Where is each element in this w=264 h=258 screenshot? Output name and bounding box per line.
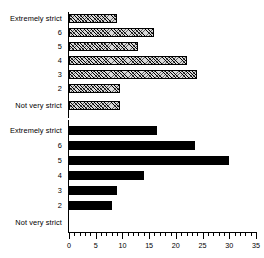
upper-row-6: Not very strict <box>0 99 264 113</box>
upper-bar-1 <box>69 28 154 37</box>
x-tick-26 <box>208 233 209 236</box>
x-axis: 05101520253035 <box>0 232 264 258</box>
upper-row-4: 3 <box>0 68 264 82</box>
x-tick-34 <box>251 233 252 236</box>
x-tick-29 <box>224 233 225 236</box>
x-tick-23 <box>192 233 193 236</box>
upper-row-2-label: 5 <box>0 40 62 54</box>
upper-row-2: 5 <box>0 40 264 54</box>
upper-row-3: 4 <box>0 54 264 68</box>
x-tick-5 <box>96 233 97 239</box>
x-tick-22 <box>187 233 188 236</box>
upper-row-1: 6 <box>0 26 264 40</box>
x-tick-21 <box>181 233 182 236</box>
upper-row-0: Extremely strict <box>0 12 264 26</box>
x-tick-35 <box>256 233 257 239</box>
lower-row-0-label: Extremely strict <box>0 124 62 138</box>
lower-row-5: 2 <box>0 199 264 213</box>
x-tick-6 <box>101 233 102 236</box>
lower-panel: Extremely strict 6 5 4 3 2 Not very stri… <box>0 120 264 232</box>
x-tick-15 <box>149 233 150 239</box>
upper-row-1-label: 6 <box>0 26 62 40</box>
x-tick-33 <box>245 233 246 236</box>
x-tick-25 <box>203 233 204 239</box>
upper-bar-3 <box>69 56 187 65</box>
lower-bar-4 <box>69 186 117 195</box>
upper-row-4-label: 3 <box>0 68 62 82</box>
x-tick-31 <box>235 233 236 236</box>
lower-bar-3 <box>69 171 144 180</box>
x-tick-8 <box>112 233 113 236</box>
lower-row-6: Not very strict <box>0 216 264 230</box>
lower-bar-0 <box>69 126 157 135</box>
x-tick-label-25: 25 <box>193 241 213 250</box>
x-tick-24 <box>197 233 198 236</box>
upper-row-5: 2 <box>0 82 264 96</box>
lower-bar-2 <box>69 156 229 165</box>
lower-row-0: Extremely strict <box>0 124 264 138</box>
x-tick-30 <box>229 233 230 239</box>
x-tick-18 <box>165 233 166 236</box>
x-tick-19 <box>171 233 172 236</box>
x-tick-label-0: 0 <box>59 241 79 250</box>
upper-bar-2 <box>69 42 138 51</box>
upper-row-0-label: Extremely strict <box>0 12 62 26</box>
lower-row-4: 3 <box>0 184 264 198</box>
horizontal-bar-chart: Extremely strict 6 5 4 3 2 Not very stri… <box>0 0 264 258</box>
x-tick-2 <box>80 233 81 236</box>
x-tick-13 <box>138 233 139 236</box>
x-tick-4 <box>90 233 91 236</box>
upper-bar-0 <box>69 14 117 23</box>
lower-row-3-label: 4 <box>0 169 62 183</box>
x-tick-11 <box>128 233 129 236</box>
x-tick-3 <box>85 233 86 236</box>
upper-bar-6 <box>69 101 120 110</box>
x-tick-label-35: 35 <box>246 241 264 250</box>
x-tick-16 <box>154 233 155 236</box>
upper-row-6-label: Not very strict <box>0 99 62 113</box>
x-tick-label-5: 5 <box>86 241 106 250</box>
lower-bar-1 <box>69 141 195 150</box>
upper-row-5-label: 2 <box>0 82 62 96</box>
lower-row-5-label: 2 <box>0 199 62 213</box>
upper-bar-5 <box>69 84 120 93</box>
x-tick-27 <box>213 233 214 236</box>
x-tick-14 <box>144 233 145 236</box>
upper-panel: Extremely strict 6 5 4 3 2 Not very stri… <box>0 8 264 118</box>
x-tick-32 <box>240 233 241 236</box>
x-tick-20 <box>176 233 177 239</box>
x-tick-12 <box>133 233 134 236</box>
lower-row-1-label: 6 <box>0 139 62 153</box>
upper-bar-4 <box>69 70 197 79</box>
x-tick-10 <box>122 233 123 239</box>
x-tick-17 <box>160 233 161 236</box>
x-tick-1 <box>74 233 75 236</box>
lower-row-6-label: Not very strict <box>0 216 62 230</box>
lower-row-2: 5 <box>0 154 264 168</box>
x-tick-9 <box>117 233 118 236</box>
lower-row-3: 4 <box>0 169 264 183</box>
x-tick-label-10: 10 <box>112 241 132 250</box>
lower-row-2-label: 5 <box>0 154 62 168</box>
lower-bar-5 <box>69 201 112 210</box>
x-tick-label-20: 20 <box>166 241 186 250</box>
x-tick-label-30: 30 <box>219 241 239 250</box>
upper-row-3-label: 4 <box>0 54 62 68</box>
x-tick-28 <box>219 233 220 236</box>
lower-row-1: 6 <box>0 139 264 153</box>
x-tick-7 <box>106 233 107 236</box>
x-tick-label-15: 15 <box>139 241 159 250</box>
lower-row-4-label: 3 <box>0 184 62 198</box>
x-tick-0 <box>69 233 70 239</box>
